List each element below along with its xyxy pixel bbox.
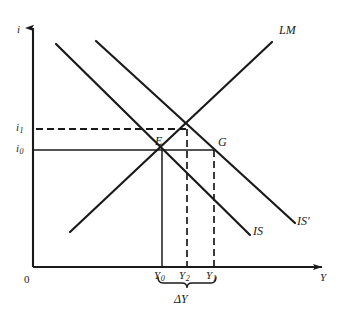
y-tick-i1-subscript: 1: [19, 126, 24, 135]
diagram-canvas: [0, 0, 348, 317]
x-tick-label-y0: Y0: [154, 270, 165, 283]
y-axis-label: i: [17, 24, 20, 35]
point-label-g: G: [218, 136, 227, 148]
is-lm-figure: i Y 0 i1 i0 Y0 Y2 Y1 LM IS IS′ E G ΔY: [0, 0, 348, 317]
curve-label-lm: LM: [279, 24, 296, 36]
point-label-e: E: [155, 135, 162, 147]
x-tick-label-y1: Y1: [206, 270, 217, 283]
y-tick-label-i1: i1: [16, 122, 24, 135]
curve-label-is-prime-base: IS: [297, 214, 307, 228]
x-tick-y2-subscript: 2: [185, 274, 190, 283]
curve-label-is-prime-mark: ′: [307, 214, 310, 228]
origin-label: 0: [24, 274, 30, 285]
y-tick-label-i0: i0: [16, 143, 24, 156]
x-tick-label-y2: Y2: [179, 270, 190, 283]
curve-lm: [70, 42, 272, 232]
curve-is-prime: [96, 41, 295, 223]
x-tick-y0-subscript: 0: [160, 274, 165, 283]
delta-y-label: ΔY: [174, 293, 188, 305]
x-tick-y1-subscript: 1: [212, 274, 217, 283]
x-axis-label: Y: [320, 272, 326, 283]
curve-label-is-prime: IS′: [297, 215, 310, 227]
curve-label-is: IS: [253, 225, 263, 237]
y-tick-i0-subscript: 0: [19, 147, 24, 156]
